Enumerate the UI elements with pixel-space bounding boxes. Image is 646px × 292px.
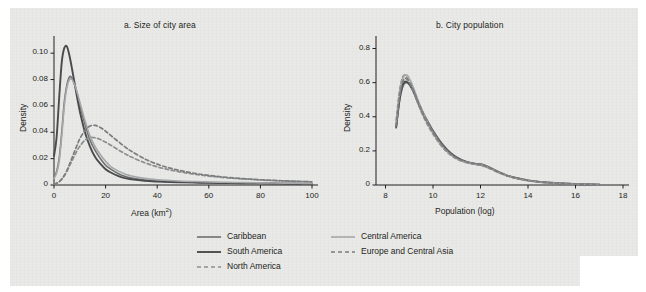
- density-curve-north-america: [396, 75, 599, 185]
- density-curve-caribbean: [396, 83, 599, 185]
- legend-swatch-solid: [196, 231, 222, 243]
- y-tick-label: 0.06: [10, 100, 48, 109]
- figure-margin-bottom: [0, 286, 646, 292]
- density-curve-caribbean: [54, 76, 312, 183]
- density-curve-central-america: [54, 79, 312, 184]
- legend-label: Europe and Central Asia: [361, 246, 453, 256]
- y-tick-label: 0.02: [10, 153, 48, 162]
- legend-swatch-solid: [196, 246, 222, 258]
- legend-swatch-dashed: [330, 246, 356, 258]
- x-tick-label: 16: [556, 191, 596, 200]
- x-tick-label: 18: [603, 191, 643, 200]
- x-tick-label: 8: [366, 191, 406, 200]
- x-tick-label: 12: [461, 191, 501, 200]
- figure-corner-cut: [580, 256, 646, 292]
- y-tick-label: 0.4: [332, 111, 370, 120]
- x-tick-label: 60: [189, 191, 229, 200]
- legend-label: Caribbean: [227, 231, 266, 241]
- legend-label: South America: [227, 246, 282, 256]
- x-tick-label: 10: [413, 191, 453, 200]
- legend-swatch-dashed: [196, 261, 222, 273]
- y-tick-label: 0.6: [332, 77, 370, 86]
- y-tick-label: 0.10: [10, 47, 48, 56]
- chart-legend: CaribbeanSouth AmericaNorth AmericaCentr…: [196, 231, 526, 277]
- y-tick-label: 0: [332, 179, 370, 188]
- legend-label: Central America: [361, 231, 421, 241]
- y-tick-label: 0.08: [10, 74, 48, 83]
- density-curve-europe-and-central-asia: [396, 78, 599, 184]
- legend-label: North America: [227, 261, 281, 271]
- density-curve-south-america: [396, 81, 599, 184]
- x-tick-label: 14: [508, 191, 548, 200]
- x-tick-label: 40: [137, 191, 177, 200]
- density-curve-europe-and-central-asia: [54, 125, 312, 184]
- y-tick-label: 0.04: [10, 126, 48, 135]
- y-tick-label: 0: [10, 179, 48, 188]
- figure-canvas: a. Size of city area Density Area (km2) …: [0, 0, 646, 292]
- x-tick-label: 0: [34, 191, 74, 200]
- x-tick-label: 80: [240, 191, 280, 200]
- y-tick-label: 0.2: [332, 145, 370, 154]
- legend-swatch-solid: [330, 231, 356, 243]
- chart-panel-size-of-city-area: a. Size of city area Density Area (km2) …: [0, 0, 323, 230]
- x-tick-label: 20: [86, 191, 126, 200]
- chart-panel-city-population: b. City population Density Population (l…: [323, 0, 646, 230]
- density-curve-central-america: [396, 75, 599, 185]
- density-curve-south-america: [54, 46, 312, 184]
- y-tick-label: 0.8: [332, 43, 370, 52]
